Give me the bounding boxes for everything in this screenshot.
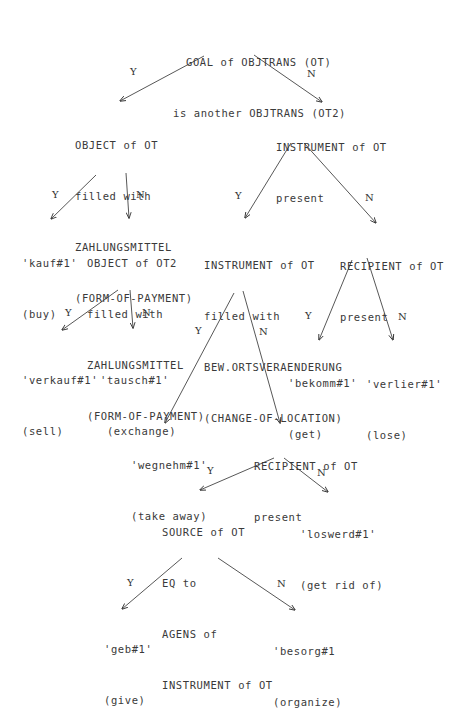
node-text: INSTRUMENT of OT [162, 677, 273, 694]
node-geb: 'geb#1' (give) [104, 607, 152, 712]
node-text: OBJECT of OT2 [87, 255, 205, 272]
node-text: 'bekomm#1' [288, 375, 357, 392]
node-loswerd: 'loswerd#1' (get rid of) [300, 492, 383, 628]
node-text: RECIPIENT of OT [340, 258, 444, 275]
node-text: EQ to [162, 575, 273, 592]
node-text: INSTRUMENT of OT [204, 257, 342, 274]
node-text: 'wegnehm#1' [131, 457, 207, 474]
node-text: 'besorg#1 [273, 643, 342, 660]
node-verkauf: 'verkauf#1' (sell) [22, 338, 98, 474]
edge-label-no: N [277, 579, 286, 589]
edge-label-yes: Y [52, 190, 59, 200]
node-text: (give) [104, 692, 152, 709]
node-text: present [340, 309, 444, 326]
node-text: (lose) [366, 427, 442, 444]
node-text: 'tausch#1' [100, 372, 176, 389]
node-text: filled with [87, 306, 205, 323]
edge-label-yes: Y [207, 466, 214, 476]
node-text: (organize) [273, 694, 342, 711]
node-text: 'loswerd#1' [300, 526, 383, 543]
node-text: GOAL of OBJTRANS (OT) [186, 54, 346, 71]
node-instrument-present: INSTRUMENT of OT present [276, 105, 387, 241]
node-text: OBJECT of OT [75, 137, 193, 154]
node-text: (sell) [22, 423, 98, 440]
node-text: 'verlier#1' [366, 376, 442, 393]
node-kauf: 'kauf#1' (buy) [22, 221, 77, 357]
node-text: SOURCE of OT [162, 524, 273, 541]
edge-label-yes: Y [127, 578, 134, 588]
node-text: present [276, 190, 387, 207]
node-besorg: 'besorg#1 (organize) [273, 609, 342, 712]
node-recipient-present-1: RECIPIENT of OT present [340, 224, 444, 360]
node-text: 'kauf#1' [22, 255, 77, 272]
node-text: filled with [75, 188, 193, 205]
node-text: (buy) [22, 306, 77, 323]
node-text: RECIPIENT of OT [254, 458, 358, 475]
node-text: 'verkauf#1' [22, 372, 98, 389]
node-text: AGENS of [162, 626, 273, 643]
node-verlier: 'verlier#1' (lose) [366, 342, 442, 478]
node-text: (get rid of) [300, 577, 383, 594]
edge-label-yes: Y [235, 191, 242, 201]
edge-label-yes: Y [130, 67, 137, 77]
node-text: INSTRUMENT of OT [276, 139, 387, 156]
node-text: filled with [204, 308, 342, 325]
node-text: 'geb#1' [104, 641, 152, 658]
node-source-eq-agens: SOURCE of OT EQ to AGENS of INSTRUMENT o… [162, 490, 273, 712]
